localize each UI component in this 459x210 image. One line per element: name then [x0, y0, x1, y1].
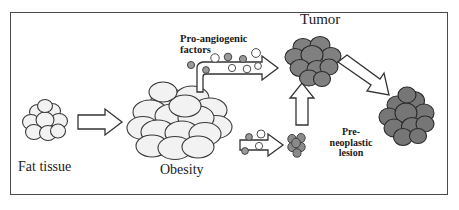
arrow-lesion-to-tumor	[290, 83, 314, 125]
label-pro-angiogenic-line2: factors	[180, 44, 247, 55]
label-obesity: Obesity	[160, 163, 204, 178]
arrow-fat-to-obesity	[78, 109, 122, 135]
metastasis-cluster	[379, 87, 434, 146]
arrow-growth-to-lesion	[240, 130, 283, 156]
label-preneoplastic-line3: lesion	[320, 148, 382, 159]
fat-tissue-cluster	[23, 100, 68, 141]
arrow-tumor-to-metastasis	[338, 55, 389, 95]
label-preneoplastic-lesion: Pre- neoplastic lesion	[320, 127, 382, 159]
tumor-cluster	[285, 37, 341, 87]
label-pro-angiogenic-factors: Pro-angiogenic factors	[180, 33, 247, 55]
preneoplastic-lesion-cluster	[288, 133, 305, 157]
label-preneoplastic-line1: Pre-	[320, 127, 382, 138]
diagram-canvas: .cellpale { fill: #f2f2f2; stroke: #3a3a…	[0, 0, 459, 210]
figure-container: .cellpale { fill: #f2f2f2; stroke: #3a3a…	[0, 0, 459, 210]
label-pro-angiogenic-line1: Pro-angiogenic	[180, 33, 247, 44]
arrow-angiogenic-factors	[197, 56, 278, 92]
label-tumor: Tumor	[300, 12, 340, 28]
obesity-cluster	[127, 82, 232, 160]
label-fat-tissue: Fat tissue	[18, 160, 71, 175]
